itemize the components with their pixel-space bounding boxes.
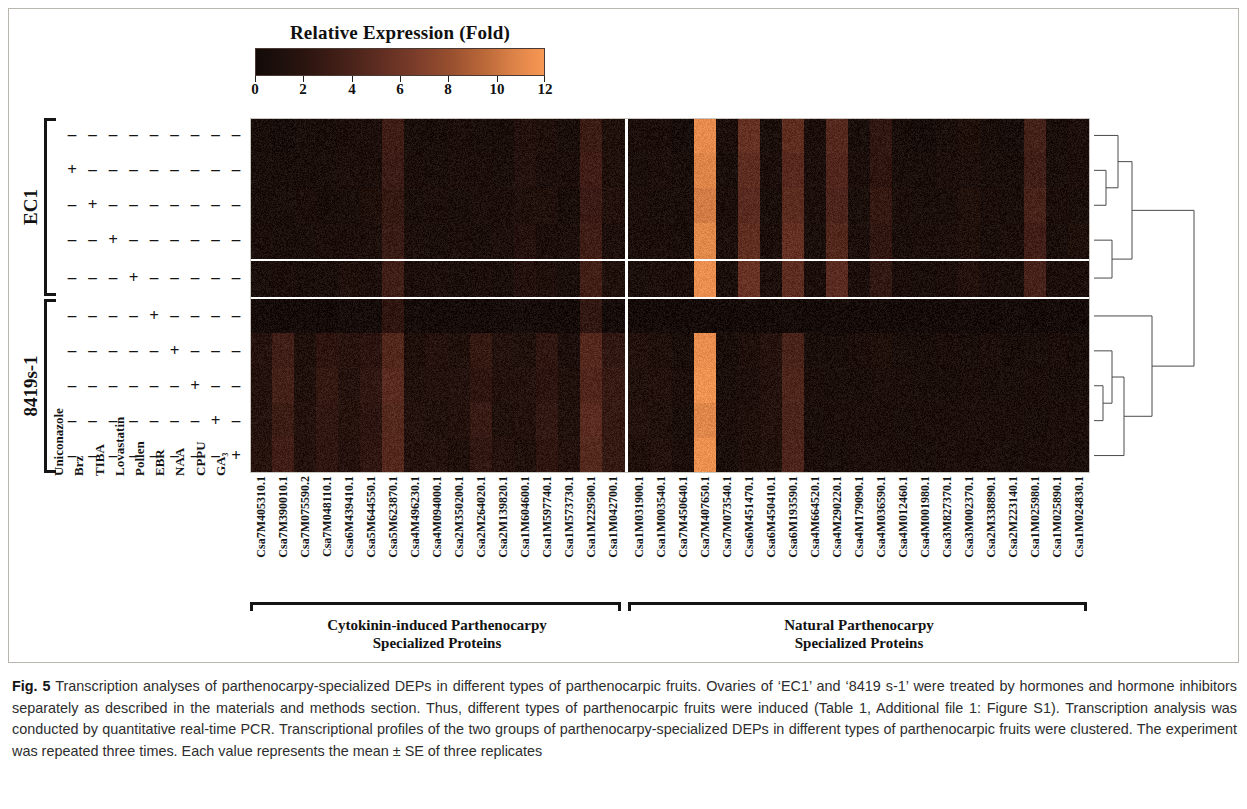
treatment-absent-marker: – [145, 271, 163, 285]
treatment-absent-marker: – [84, 344, 102, 358]
treatment-absent-marker: – [186, 271, 204, 285]
treatment-absent-marker: – [63, 233, 81, 247]
treatment-name-label: EBR [152, 449, 168, 476]
treatment-absent-marker: – [84, 233, 102, 247]
heatmap-canvas [250, 118, 1090, 473]
colorbar-tick-label: 2 [299, 81, 307, 98]
treatment-absent-marker: – [207, 309, 225, 323]
sample-group-label: EC1 [20, 189, 42, 225]
treatment-absent-marker: – [227, 309, 245, 323]
treatment-absent-marker: – [227, 163, 245, 177]
treatment-absent-marker: – [145, 163, 163, 177]
gene-group-label: Cytokinin-induced ParthenocarpySpecializ… [250, 616, 624, 652]
treatment-absent-marker: – [125, 379, 143, 393]
gene-id-label: Csa3M827370.1 [940, 476, 955, 558]
treatment-absent-marker: – [104, 198, 122, 212]
gene-id-label: Csa1M003540.1 [654, 476, 669, 558]
treatment-absent-marker: – [207, 379, 225, 393]
treatment-absent-marker: – [145, 233, 163, 247]
gene-id-label: Csa2M338890.1 [984, 476, 999, 558]
treatment-absent-marker: – [104, 163, 122, 177]
figure-caption-text: Transcription analyses of parthenocarpy-… [12, 678, 1237, 759]
treatment-absent-marker: – [186, 233, 204, 247]
colorbar-tick-label: 8 [444, 81, 452, 98]
treatment-absent-marker: – [84, 128, 102, 142]
treatment-absent-marker: – [84, 163, 102, 177]
colorbar-tick-label: 0 [251, 81, 259, 98]
treatment-row: –+––––––– [63, 198, 245, 212]
treatment-absent-marker: – [207, 198, 225, 212]
gene-id-label: Csa4M036590.1 [874, 476, 889, 558]
treatment-applied-marker: + [227, 449, 245, 463]
treatment-name-label: Pollen [132, 441, 148, 476]
gene-id-label: Csa4M094000.1 [430, 476, 445, 558]
sample-group-label: 8419s-1 [20, 355, 42, 416]
treatment-absent-marker: – [207, 344, 225, 358]
gene-id-label: Csa2M264020.1 [474, 476, 489, 558]
gene-id-label: Csa5M623870.1 [386, 476, 401, 558]
treatment-applied-marker: + [63, 163, 81, 177]
treatment-name-label: Brz [71, 456, 87, 476]
treatment-absent-marker: – [166, 271, 184, 285]
treatment-row: +–––––––– [63, 163, 245, 177]
treatment-absent-marker: – [166, 379, 184, 393]
treatment-name-label: NAA [172, 448, 188, 476]
figure-caption: Fig. 5 Transcription analyses of parthen… [12, 676, 1237, 762]
gene-group-label-line2: Specialized Proteins [628, 634, 1090, 652]
treatment-absent-marker: – [166, 414, 184, 428]
treatment-absent-marker: – [125, 309, 143, 323]
gene-id-label: Csa7M048110.1 [320, 476, 335, 557]
colorbar-gradient [255, 48, 545, 76]
treatment-applied-marker: + [104, 233, 122, 247]
treatment-absent-marker: – [186, 128, 204, 142]
gene-id-label: Csa5M644550.1 [364, 476, 379, 558]
gene-id-label: Csa4M496230.1 [408, 476, 423, 558]
treatment-absent-marker: – [186, 198, 204, 212]
treatment-absent-marker: – [227, 128, 245, 142]
gene-group-label: Natural ParthenocarpySpecialized Protein… [628, 616, 1090, 652]
gene-id-axis: Csa7M405310.1Csa7M390010.1Csa7M075590.2C… [250, 476, 1090, 596]
treatment-name-label: TIBA [92, 444, 108, 476]
figure-root: Relative Expression (Fold) 024681012 EC1… [0, 0, 1247, 809]
treatment-name-axis: UniconazoleBrzTIBALovastatinPollenEBRNAA… [63, 476, 245, 576]
colorbar-tick-label: 6 [396, 81, 404, 98]
treatment-absent-marker: – [227, 344, 245, 358]
gene-id-label: Csa1M042700.1 [606, 476, 621, 558]
sample-group-bracket [44, 118, 56, 296]
figure-number: Fig. 5 [12, 678, 51, 694]
treatment-absent-marker: – [145, 414, 163, 428]
gene-id-label: Csa7M075590.2 [298, 476, 313, 558]
treatment-row: –––––––+– [63, 414, 245, 428]
treatment-absent-marker: – [125, 128, 143, 142]
treatment-absent-marker: – [63, 198, 81, 212]
treatment-absent-marker: – [207, 271, 225, 285]
treatment-absent-marker: – [145, 379, 163, 393]
treatment-row: –––––+––– [63, 344, 245, 358]
gene-id-label: Csa2M223140.1 [1006, 476, 1021, 558]
treatment-absent-marker: – [63, 271, 81, 285]
treatment-absent-marker: – [125, 344, 143, 358]
treatment-absent-marker: – [63, 128, 81, 142]
treatment-absent-marker: – [104, 271, 122, 285]
gene-id-label: Csa6M193590.1 [786, 476, 801, 558]
treatment-absent-marker: – [166, 163, 184, 177]
treatment-absent-marker: – [207, 233, 225, 247]
gene-id-label: Csa4M012460.1 [896, 476, 911, 558]
colorbar-tick-label: 10 [490, 81, 505, 98]
treatment-absent-marker: – [166, 198, 184, 212]
treatment-absent-marker: – [104, 309, 122, 323]
gene-id-label: Csa1M604600.1 [518, 476, 533, 558]
gene-id-label: Csa2M139820.1 [496, 476, 511, 558]
gene-group-label-line1: Cytokinin-induced Parthenocarpy [250, 616, 624, 634]
treatment-applied-marker: + [125, 271, 143, 285]
gene-id-label: Csa4M001980.1 [918, 476, 933, 558]
gene-id-label: Csa4M179090.1 [852, 476, 867, 558]
treatment-name-label: CPPU [193, 441, 209, 476]
gene-id-label: Csa2M350200.1 [452, 476, 467, 558]
heatmap [250, 118, 1090, 473]
colorbar-axis: 024681012 [255, 76, 545, 98]
gene-id-label: Csa1M573730.1 [562, 476, 577, 558]
treatment-applied-marker: + [84, 198, 102, 212]
gene-group-bracket [628, 602, 1087, 611]
gene-id-label: Csa7M450640.1 [676, 476, 691, 558]
